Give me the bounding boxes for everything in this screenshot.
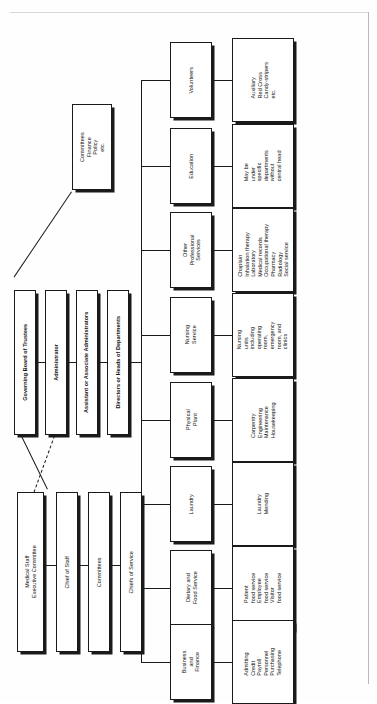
node-dietary-food-detail[interactable]: Patient food service Employee food servi…	[232, 546, 294, 630]
node-medical-committees[interactable]: Committees	[88, 492, 110, 652]
node-laundry-detail[interactable]: Laundry Mending	[232, 462, 294, 546]
node-nursing-service[interactable]: Nursing Service	[170, 297, 212, 373]
connector-business-finance-to-detail	[212, 662, 232, 663]
node-label: Volunteers	[188, 67, 195, 93]
node-governing-board[interactable]: Governing Board of Trustees	[14, 290, 36, 435]
department-bus-trunk	[141, 80, 142, 663]
connector-physical-plant-to-detail	[212, 420, 232, 421]
node-label: Committees Finance Policy etc.	[79, 132, 105, 162]
connector-other-professional-to-detail	[212, 250, 232, 251]
connector-education-to-detail	[212, 166, 232, 167]
connector-committees-to-board	[14, 191, 72, 277]
connector-assistants-to-directors	[98, 362, 107, 363]
node-label: Governing Board of Trustees	[22, 324, 29, 401]
connector-nursing-service-to-detail	[212, 335, 232, 336]
connector-bus-to-physical-plant	[141, 420, 170, 421]
connector-bus-to-business-finance	[141, 662, 170, 663]
node-label: Patient food service Employee food servi…	[243, 573, 283, 603]
node-label: Directors or Heads of Departments	[115, 316, 122, 409]
node-label: Business and Finance	[181, 651, 201, 674]
node-label: Medical Staff Executive Committee	[24, 546, 37, 599]
node-label: Administrator	[53, 344, 60, 381]
node-label: Laundry	[188, 494, 195, 514]
node-education[interactable]: Education	[170, 128, 212, 204]
node-label: Nursing units including operating room, …	[237, 321, 290, 349]
node-label: Chief of Staff	[64, 556, 71, 588]
connector-bus-to-volunteers	[141, 80, 170, 81]
node-volunteers[interactable]: Volunteers	[170, 42, 212, 118]
node-label: Nursing Service	[184, 325, 197, 344]
connector-chief-to-committees	[78, 565, 88, 566]
connector-bus-to-nursing-service	[141, 335, 170, 336]
node-label: Dietary and Food Service	[184, 572, 197, 605]
node-label: Assistant or Associate Administrators	[84, 312, 91, 413]
node-dietary-food[interactable]: Dietary and Food Service	[170, 550, 212, 626]
node-label: Physical Plant	[184, 410, 197, 431]
connector-bus-to-other-professional	[141, 250, 170, 251]
node-label: Education	[188, 154, 195, 179]
connector-bus-to-laundry	[141, 504, 170, 505]
node-other-professional-detail[interactable]: Chaplain Inhalation therapy Laboratory M…	[232, 208, 294, 292]
connector-medstaff-to-chief	[44, 565, 56, 566]
node-label: Admitting Credit Payroll Personnel Purch…	[243, 648, 283, 676]
node-directors-heads[interactable]: Directors or Heads of Departments	[107, 290, 129, 435]
node-label: Committees	[96, 557, 103, 587]
node-physical-plant[interactable]: Physical Plant	[170, 382, 212, 458]
connector-board-to-administrator	[36, 362, 45, 363]
node-chiefs-of-service[interactable]: Chiefs of Service	[120, 492, 142, 652]
node-label: Laundry Mending	[256, 493, 269, 514]
node-volunteers-detail[interactable]: Auxiliary Red Cross Candy-stripers etc.	[232, 38, 294, 122]
node-business-finance-detail[interactable]: Admitting Credit Payroll Personnel Purch…	[232, 620, 294, 704]
node-label: Auxiliary Red Cross Candy-stripers etc.	[250, 62, 276, 98]
node-medical-staff-exec[interactable]: Medical Staff Executive Committee	[17, 492, 44, 652]
node-chief-of-staff[interactable]: Chief of Staff	[56, 492, 78, 652]
connector-directors-to-bus	[129, 362, 141, 363]
connector-volunteers-to-detail	[212, 80, 232, 81]
connector-committees-to-chiefs	[110, 565, 120, 566]
node-assistant-administrators[interactable]: Assistant or Associate Administrators	[76, 290, 98, 435]
node-label: Chaplain Inhalation therapy Laboratory M…	[237, 224, 290, 277]
node-physical-plant-detail[interactable]: Carpentry Engineering Maintenance Housek…	[232, 378, 294, 462]
node-other-professional[interactable]: Other Professional Services	[170, 212, 212, 288]
node-nursing-service-detail[interactable]: Nursing units including operating room, …	[232, 293, 294, 377]
connector-bus-to-dietary-food	[141, 588, 170, 589]
node-label: Other Professional Services	[181, 235, 201, 266]
node-label: Carpentry Engineering Maintenance Housek…	[250, 402, 276, 438]
node-committees-top[interactable]: Committees Finance Policy etc.	[72, 104, 112, 190]
node-label: May be under specific departments withou…	[243, 150, 283, 181]
connector-dietary-food-to-detail	[212, 588, 232, 589]
node-education-detail[interactable]: May be under specific departments withou…	[232, 124, 294, 208]
connector-administrator-to-assistants	[67, 362, 76, 363]
connector-laundry-to-detail	[212, 504, 232, 505]
node-laundry[interactable]: Laundry	[170, 466, 212, 542]
node-administrator[interactable]: Administrator	[45, 290, 67, 435]
node-business-finance[interactable]: Business and Finance	[170, 624, 212, 700]
connector-bus-to-education	[141, 166, 170, 167]
node-label: Chiefs of Service	[128, 551, 135, 593]
